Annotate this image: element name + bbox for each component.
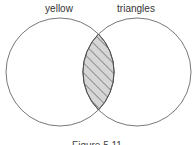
set-label-yellow: yellow — [45, 3, 74, 14]
figure-caption: Figure 5.11 — [72, 140, 122, 145]
set-label-triangles: triangles — [117, 3, 155, 14]
venn-diagram: yellow triangles Figure 5.11 — [0, 0, 194, 145]
